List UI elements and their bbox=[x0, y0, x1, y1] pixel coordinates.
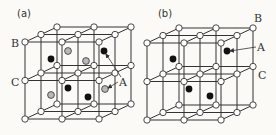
gray-atom bbox=[48, 92, 55, 99]
lattice-node bbox=[181, 78, 187, 84]
lattice-node bbox=[54, 62, 60, 68]
lattice-node bbox=[22, 77, 28, 83]
lattice-node bbox=[218, 117, 224, 123]
black-atom bbox=[207, 93, 214, 100]
panel-a: BCA(a) bbox=[11, 8, 134, 122]
lattice-node bbox=[176, 25, 182, 31]
gray-atom bbox=[83, 58, 90, 65]
lattice-node bbox=[91, 62, 97, 68]
lattice-node bbox=[234, 109, 240, 115]
lattice-node bbox=[160, 32, 166, 38]
point-label-c: C bbox=[11, 76, 19, 89]
lattice-node bbox=[213, 25, 219, 31]
lattice-node bbox=[234, 71, 240, 77]
panel-caption: (b) bbox=[158, 8, 172, 19]
panel-caption: (a) bbox=[17, 8, 31, 19]
lattice-node bbox=[38, 31, 44, 37]
lattice-node bbox=[59, 116, 65, 122]
black-atom bbox=[48, 56, 55, 63]
lattice-node bbox=[96, 116, 102, 122]
lattice-node bbox=[128, 62, 134, 68]
lattice-node bbox=[160, 71, 166, 77]
crystal-lattice-figure: BCA(a)BAC(b) bbox=[0, 0, 276, 135]
lattice-node bbox=[176, 63, 182, 69]
lattice-node bbox=[144, 78, 150, 84]
lattice-node bbox=[128, 24, 134, 30]
point-label-b: B bbox=[254, 12, 262, 25]
black-atom bbox=[186, 86, 193, 93]
gray-atom bbox=[102, 86, 109, 93]
lattice-node bbox=[250, 63, 256, 69]
lattice-node bbox=[38, 70, 44, 76]
lattice-node bbox=[218, 78, 224, 84]
lattice-node bbox=[213, 102, 219, 108]
lattice-node bbox=[59, 39, 65, 45]
black-atom bbox=[170, 56, 177, 63]
gray-atom bbox=[65, 48, 72, 55]
point-label-a: A bbox=[256, 41, 266, 54]
lattice-diagram: BCA(a)BAC(b) bbox=[0, 0, 276, 135]
lattice-node bbox=[181, 117, 187, 123]
lattice-node bbox=[59, 77, 65, 83]
lattice-node bbox=[250, 25, 256, 31]
lattice-node bbox=[160, 109, 166, 115]
black-atom bbox=[101, 48, 108, 55]
lattice-node bbox=[213, 63, 219, 69]
lattice-node bbox=[112, 31, 118, 37]
lattice-node bbox=[22, 116, 28, 122]
lattice-node bbox=[181, 40, 187, 46]
lattice-node bbox=[75, 70, 81, 76]
pointer-arrow bbox=[230, 47, 256, 51]
lattice-node bbox=[96, 39, 102, 45]
lattice-node bbox=[197, 32, 203, 38]
lattice-node bbox=[54, 24, 60, 30]
lattice-node bbox=[75, 31, 81, 37]
point-label-b: B bbox=[11, 37, 19, 50]
panel-b: BAC(b) bbox=[144, 8, 267, 123]
lattice-node bbox=[234, 32, 240, 38]
black-atom bbox=[65, 85, 72, 92]
lattice-node bbox=[91, 101, 97, 107]
lattice-node bbox=[128, 101, 134, 107]
lattice-node bbox=[144, 117, 150, 123]
lattice-node bbox=[54, 101, 60, 107]
lattice-node bbox=[197, 109, 203, 115]
black-atom bbox=[224, 48, 231, 55]
lattice-node bbox=[218, 40, 224, 46]
pointer-arrow bbox=[108, 82, 118, 88]
lattice-node bbox=[250, 102, 256, 108]
point-label-a: A bbox=[118, 76, 128, 89]
lattice-node bbox=[197, 71, 203, 77]
lattice-node bbox=[91, 24, 97, 30]
lattice-node bbox=[75, 108, 81, 114]
lattice-node bbox=[176, 102, 182, 108]
lattice-node bbox=[96, 77, 102, 83]
lattice-node bbox=[112, 108, 118, 114]
black-atom bbox=[85, 94, 92, 101]
lattice-node bbox=[22, 39, 28, 45]
lattice-node bbox=[144, 40, 150, 46]
point-label-c: C bbox=[258, 69, 266, 82]
lattice-node bbox=[38, 108, 44, 114]
